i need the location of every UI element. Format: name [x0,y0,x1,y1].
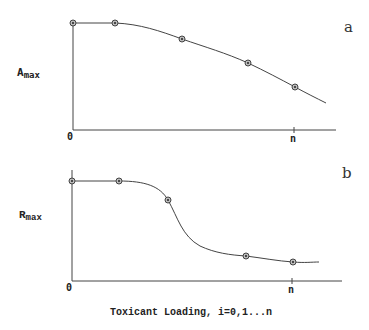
panel-a-ylabel: Amax [17,66,40,79]
panel-a-axes [73,22,336,133]
panel-b-ylabel: Rmax [19,209,42,221]
panel-b-n-tick: n [288,284,294,295]
panel-b-axes [72,170,342,284]
panel-b-points [69,178,296,265]
panel-b-zero-tick: 0 [66,282,72,293]
figure-svg [0,0,369,330]
panel-b-label: b [342,164,352,182]
panel-a-points [70,20,298,90]
panel-a-label: a [344,18,353,36]
panel-b-curve [72,181,319,262]
x-axis-label: Toxicant Loading, i=0,1...n [110,307,272,318]
panel-a-n-tick: n [290,133,296,144]
panel-a-curve [73,23,326,103]
panel-a-zero-tick: 0 [67,131,73,142]
